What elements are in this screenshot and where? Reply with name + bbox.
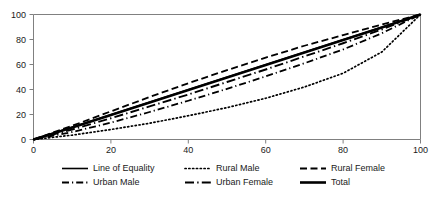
legend-item-total[interactable]: Total [300,177,350,187]
x-tick-label-60: 60 [261,145,271,155]
legend-label: Urban Female [216,177,273,187]
legend-label: Urban Male [93,177,140,187]
y-tick-label-40: 40 [16,85,26,95]
lorenz-curve-chart: 0 20 40 60 80 100 0 20 40 60 80 100 Line… [0,0,435,197]
legend-label: Rural Male [216,163,260,173]
y-tick-label-0: 0 [21,135,26,145]
y-axis: 0 20 40 60 80 100 [11,10,34,145]
series-total [34,15,421,140]
chart-canvas: 0 20 40 60 80 100 0 20 40 60 80 100 Line… [0,0,435,197]
series-layer [34,15,421,140]
y-tick-label-80: 80 [16,35,26,45]
legend-label: Rural Female [331,163,385,173]
x-tick-label-20: 20 [106,145,116,155]
y-tick-label-100: 100 [11,10,26,20]
x-tick-label-40: 40 [183,145,193,155]
x-axis: 0 20 40 60 80 100 [31,140,428,156]
legend-item-rural-male[interactable]: Rural Male [185,163,260,173]
legend-item-urban-female[interactable]: Urban Female [185,177,273,187]
legend-label: Total [331,177,350,187]
legend-item-rural-female[interactable]: Rural Female [300,163,385,173]
legend-label: Line of Equality [93,163,155,173]
chart-legend: Line of EqualityRural MaleRural FemaleUr… [62,163,385,187]
x-tick-label-0: 0 [31,145,36,155]
x-tick-label-100: 100 [413,145,428,155]
y-tick-label-60: 60 [16,60,26,70]
legend-item-line-of-equality[interactable]: Line of Equality [62,163,155,173]
x-tick-label-80: 80 [338,145,348,155]
y-tick-label-20: 20 [16,110,26,120]
legend-item-urban-male[interactable]: Urban Male [62,177,140,187]
